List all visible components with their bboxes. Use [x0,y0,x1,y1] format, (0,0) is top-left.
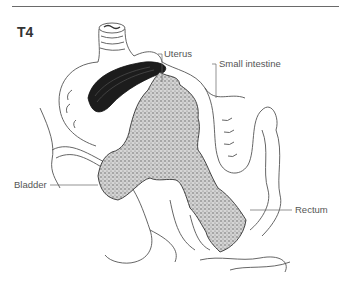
tumor-mass [98,72,246,252]
bladder-label: Bladder [14,179,47,190]
rectum-label: Rectum [295,204,328,215]
uterus-label: Uterus [164,48,192,59]
small-intestine-label: Small intestine [219,58,281,69]
small-intestine-leader [212,64,216,98]
anatomical-illustration [0,0,339,282]
tube-top [98,23,134,62]
